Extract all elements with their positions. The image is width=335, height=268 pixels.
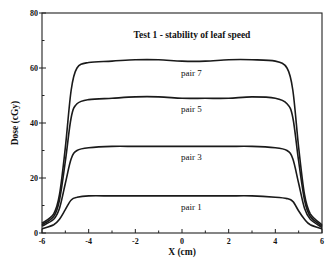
y-tick-label: 40	[30, 119, 38, 128]
y-tick-label: 60	[30, 64, 38, 73]
chart-background	[0, 0, 335, 268]
x-tick-label: 0	[180, 237, 184, 246]
y-tick-label: 0	[34, 229, 38, 238]
label-pair-7: pair 7	[181, 68, 202, 78]
y-tick-label: 20	[30, 174, 38, 183]
y-tick-label: 80	[30, 9, 38, 18]
y-axis-title: Dose (cGy)	[10, 101, 21, 146]
x-tick-label: 6	[320, 237, 324, 246]
label-pair-3: pair 3	[181, 152, 202, 162]
x-tick-label: 2	[227, 237, 231, 246]
x-tick-label: 4	[273, 237, 277, 246]
x-tick-label: -4	[85, 237, 92, 246]
x-tick-label: -6	[39, 237, 46, 246]
label-pair-1: pair 1	[181, 202, 202, 212]
x-axis-title: X (cm)	[168, 247, 196, 258]
dose-profile-chart: -6-4-20246 020406080 pair 7pair 5pair 3p…	[0, 0, 335, 268]
x-tick-label: -2	[132, 237, 139, 246]
label-pair-5: pair 5	[181, 104, 202, 114]
chart-title: Test 1 - stability of leaf speed	[134, 30, 252, 40]
